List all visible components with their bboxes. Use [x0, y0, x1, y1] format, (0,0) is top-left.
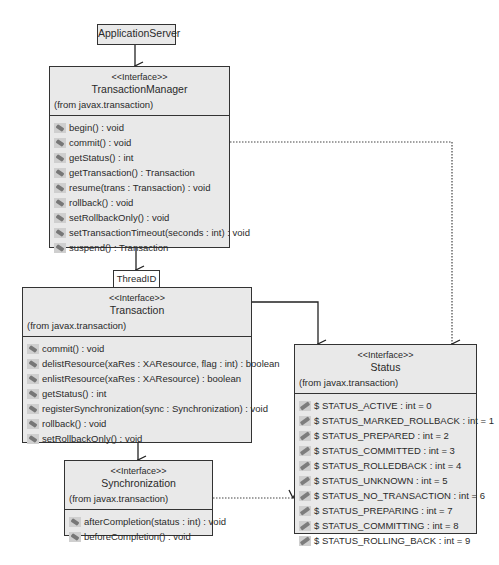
status-interface[interactable]: <<Interface>> Status (from javax.transac…: [294, 344, 477, 534]
operation-icon: [54, 168, 66, 178]
operation-icon: [54, 228, 66, 238]
class-header: <<Interface>> Transaction (from javax.tr…: [23, 288, 251, 337]
operation-item: getStatus() : int: [27, 386, 247, 401]
attribute-icon: [299, 476, 311, 486]
attribute-icon: [299, 431, 311, 441]
attribute-icon: [299, 536, 311, 546]
operation-icon: [27, 419, 39, 429]
class-name: Synchronization: [69, 477, 208, 490]
attribute-item: $ STATUS_MARKED_ROLLBACK : int = 1: [299, 413, 472, 428]
application-server-class[interactable]: ApplicationServer: [97, 24, 176, 45]
package-label: (from javax.transaction): [54, 98, 225, 112]
operation-item: suspend() : Transaction: [54, 240, 225, 255]
attribute-item: $ STATUS_PREPARED : int = 2: [299, 428, 472, 443]
attribute-item: $ STATUS_ACTIVE : int = 0: [299, 398, 472, 413]
class-header: <<Interface>> TransactionManager (from j…: [50, 67, 229, 116]
operation-icon: [27, 359, 39, 369]
attribute-icon: [299, 521, 311, 531]
edge-transaction-status: [252, 302, 318, 344]
package-label: (from javax.transaction): [69, 492, 208, 506]
attribute-icon: [299, 506, 311, 516]
attribute-icon: [299, 461, 311, 471]
class-name: ApplicationServer: [98, 27, 180, 39]
operation-item: resume(trans : Transaction) : void: [54, 180, 225, 195]
operation-item: afterCompletion(status : int) : void: [69, 514, 208, 529]
operation-icon: [27, 344, 39, 354]
operation-item: rollback() : void: [54, 195, 225, 210]
attribute-item: $ STATUS_UNKNOWN : int = 5: [299, 473, 472, 488]
stereotype: <<Interface>>: [299, 349, 472, 361]
attribute-icon: [299, 491, 311, 501]
operation-item: rollback() : void: [27, 416, 247, 431]
operation-item: beforeCompletion() : void: [69, 529, 208, 544]
attribute-item: $ STATUS_ROLLING_BACK : int = 9: [299, 533, 472, 548]
transaction-manager-interface[interactable]: <<Interface>> TransactionManager (from j…: [49, 66, 230, 248]
attribute-icon: [299, 416, 311, 426]
class-header: <<Interface>> Status (from javax.transac…: [295, 345, 476, 394]
operation-item: begin() : void: [54, 120, 225, 135]
operation-icon: [54, 138, 66, 148]
synchronization-interface[interactable]: <<Interface>> Synchronization (from java…: [64, 460, 213, 536]
operation-item: setRollbackOnly() : void: [54, 210, 225, 225]
operation-item: commit() : void: [54, 135, 225, 150]
operation-icon: [27, 374, 39, 384]
class-name: Transaction: [27, 304, 247, 317]
attribute-item: $ STATUS_COMMITTING : int = 8: [299, 518, 472, 533]
stereotype: <<Interface>>: [54, 71, 225, 83]
operations-list: begin() : void commit() : void getStatus…: [50, 116, 229, 260]
operation-item: delistResource(xaRes : XAResource, flag …: [27, 356, 247, 371]
class-name: Status: [299, 361, 472, 374]
operation-icon: [54, 153, 66, 163]
operation-icon: [27, 404, 39, 414]
attributes-list: $ STATUS_ACTIVE : int = 0 $ STATUS_MARKE…: [295, 394, 476, 553]
operation-item: getTransaction() : Transaction: [54, 165, 225, 180]
operation-icon: [69, 517, 81, 527]
operation-item: registerSynchronization(sync : Synchroni…: [27, 401, 247, 416]
operation-icon: [27, 434, 39, 444]
stereotype: <<Interface>>: [69, 465, 208, 477]
operations-list: commit() : void delistResource(xaRes : X…: [23, 337, 251, 451]
operations-list: afterCompletion(status : int) : void bef…: [65, 510, 212, 549]
class-name: TransactionManager: [54, 83, 225, 96]
operation-item: setRollbackOnly() : void: [27, 431, 247, 446]
attribute-icon: [299, 446, 311, 456]
operation-icon: [54, 198, 66, 208]
operation-icon: [54, 243, 66, 253]
operation-item: commit() : void: [27, 341, 247, 356]
operation-icon: [54, 183, 66, 193]
qualifier-label: ThreadID: [117, 273, 157, 284]
operation-icon: [69, 532, 81, 542]
operation-icon: [54, 213, 66, 223]
edge-tm-status: [230, 142, 452, 344]
operation-item: setTransactionTimeout(seconds : int) : v…: [54, 225, 225, 240]
package-label: (from javax.transaction): [27, 319, 247, 333]
operation-icon: [54, 123, 66, 133]
attribute-item: $ STATUS_NO_TRANSACTION : int = 6: [299, 488, 472, 503]
attribute-item: $ STATUS_ROLLEDBACK : int = 4: [299, 458, 472, 473]
transaction-interface[interactable]: <<Interface>> Transaction (from javax.tr…: [22, 287, 252, 443]
stereotype: <<Interface>>: [27, 292, 247, 304]
attribute-item: $ STATUS_PREPARING : int = 7: [299, 503, 472, 518]
attribute-item: $ STATUS_COMMITTED : int = 3: [299, 443, 472, 458]
package-label: (from javax.transaction): [299, 376, 472, 390]
operation-item: getStatus() : int: [54, 150, 225, 165]
attribute-icon: [299, 401, 311, 411]
operation-icon: [27, 389, 39, 399]
operation-item: enlistResource(xaRes : XAResource) : boo…: [27, 371, 247, 386]
class-header: <<Interface>> Synchronization (from java…: [65, 461, 212, 510]
